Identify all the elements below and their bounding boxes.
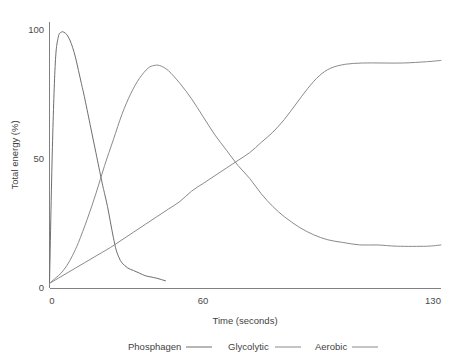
- legend-label-phosphagen: Phosphagen: [128, 341, 181, 352]
- y-tick-label-0: 0: [39, 282, 44, 293]
- y-tick-label-100: 100: [28, 24, 44, 35]
- x-tick-label-60: 60: [198, 295, 209, 306]
- series-group: [50, 32, 442, 284]
- legend: Phosphagen Glycolytic Aerobic: [128, 341, 378, 352]
- legend-label-aerobic: Aerobic: [315, 341, 347, 352]
- x-axis-title: Time (seconds): [212, 315, 277, 326]
- chart-container: 100 50 0 0 60 130 Time (seconds) Total e…: [0, 0, 456, 364]
- y-axis-title: Total energy (%): [9, 120, 20, 189]
- y-tick-label-50: 50: [33, 153, 44, 164]
- series-path-glycolytic: [50, 65, 442, 283]
- legend-label-glycolytic: Glycolytic: [228, 341, 269, 352]
- energy-systems-line-chart: 100 50 0 0 60 130 Time (seconds) Total e…: [0, 0, 456, 364]
- series-path-aerobic: [50, 60, 442, 283]
- x-tick-label-0: 0: [49, 295, 54, 306]
- x-tick-label-130: 130: [425, 295, 441, 306]
